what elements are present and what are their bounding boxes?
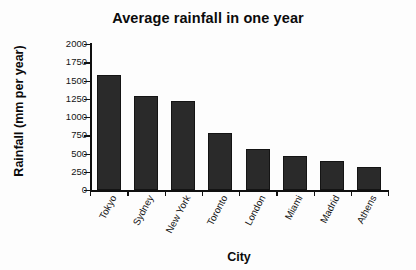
- x-tick-label-text: Toronto: [206, 194, 230, 227]
- y-tick-label: 1500: [66, 76, 87, 86]
- y-axis-title-container: Rainfall (mm per year): [8, 32, 30, 190]
- y-tick-label: 2000: [66, 39, 87, 49]
- y-axis-title: Rainfall (mm per year): [12, 45, 26, 176]
- bar[interactable]: [320, 161, 344, 190]
- x-axis-title: City: [90, 250, 388, 264]
- x-tick-mark: [276, 190, 277, 196]
- x-tick-mark: [388, 190, 389, 196]
- x-tick-label-text: Athens: [356, 194, 379, 226]
- bar[interactable]: [246, 149, 270, 190]
- bar[interactable]: [208, 133, 232, 190]
- x-tick-label-text: London: [243, 194, 267, 227]
- chart-title: Average rainfall in one year: [0, 10, 416, 26]
- y-tick-label: 750: [71, 131, 87, 141]
- y-tick-label: 1250: [66, 94, 87, 104]
- x-tick-label-text: New York: [164, 194, 192, 235]
- bar[interactable]: [283, 156, 307, 190]
- x-tick-mark: [202, 190, 203, 196]
- chart-figure: Average rainfall in one year Rainfall (m…: [0, 0, 416, 270]
- y-axis-line: [90, 43, 92, 191]
- y-tick-label: 250: [71, 167, 87, 177]
- x-tick-label-text: Tokyo: [97, 194, 118, 221]
- x-tick-mark: [165, 190, 166, 196]
- x-tick-mark: [351, 190, 352, 196]
- x-tick-mark: [90, 190, 91, 196]
- x-tick-mark: [239, 190, 240, 196]
- y-tick-label: 1000: [66, 112, 87, 122]
- x-tick-label-text: Sydney: [131, 194, 155, 227]
- bar[interactable]: [171, 101, 195, 190]
- x-tick-label-text: Madrid: [319, 194, 342, 225]
- bar[interactable]: [97, 75, 121, 190]
- x-tick-label-text: Miami: [283, 194, 304, 222]
- x-tick-mark: [127, 190, 128, 196]
- y-tick-label: 1750: [66, 58, 87, 68]
- y-tick-label: 500: [71, 149, 87, 159]
- x-tick-mark: [314, 190, 315, 196]
- plot-area: 025050075010001250150017502000: [90, 44, 388, 190]
- y-tick-label: 0: [82, 185, 87, 195]
- bar[interactable]: [134, 96, 158, 190]
- bar[interactable]: [357, 167, 381, 190]
